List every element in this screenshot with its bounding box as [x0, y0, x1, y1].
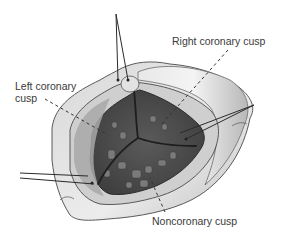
aortic-valve-illustration: Left coronary cusp Right coronary cusp N… — [0, 0, 281, 233]
label-right-coronary-cusp: Right coronary cusp — [172, 35, 265, 47]
label-noncoronary-cusp: Noncoronary cusp — [152, 215, 237, 227]
label-left-coronary-cusp: Left coronary cusp — [15, 80, 85, 104]
pledget-top — [121, 76, 139, 92]
